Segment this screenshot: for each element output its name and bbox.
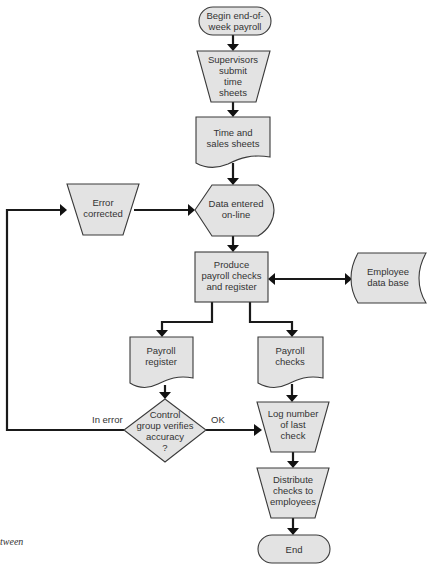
supervisors-label-line-1: Supervisors xyxy=(208,54,258,65)
error-corrected-label-line-2: corrected xyxy=(83,208,123,219)
employee-database-node: Employee data base xyxy=(351,253,426,303)
control-label-line-1: Control xyxy=(150,409,181,420)
control-decision-diamond: Control group verifies accuracy ? xyxy=(124,399,206,462)
begin-label-line-1: Begin end-of- xyxy=(206,10,263,21)
time-sales-label-line-2: sales sheets xyxy=(207,138,260,149)
caption-fragment: tween xyxy=(0,536,23,547)
error-corrected-node: Error corrected xyxy=(67,184,139,235)
begin-label-line-2: week payroll xyxy=(208,21,262,32)
produce-label-line-3: and register xyxy=(206,281,256,292)
distribute-label-line-1: Distribute xyxy=(273,474,313,485)
produce-payroll-process: Produce payroll checks and register xyxy=(195,252,268,302)
end-label: End xyxy=(286,544,303,555)
connectors xyxy=(7,35,352,535)
control-label-line-2: group verifies xyxy=(136,420,193,431)
log-number-label-line-2: of last xyxy=(280,419,306,430)
edge-label-ok: OK xyxy=(211,414,225,425)
supervisors-label-line-2: submit xyxy=(219,65,247,76)
edge-label-in-error: In error xyxy=(92,414,123,425)
payroll-flowchart: Begin end-of- week payroll Supervisors s… xyxy=(0,0,427,572)
payroll-register-label-line-1: Payroll xyxy=(146,345,175,356)
control-label-line-4: ? xyxy=(162,442,167,453)
produce-label-line-1: Produce xyxy=(214,259,249,270)
payroll-checks-document: Payroll checks xyxy=(258,337,323,387)
payroll-register-document: Payroll register xyxy=(130,337,193,387)
distribute-label-line-3: employees xyxy=(270,496,316,507)
log-number-label-line-3: check xyxy=(281,430,306,441)
payroll-checks-label-line-2: checks xyxy=(275,356,305,367)
log-number-node: Log number of last check xyxy=(257,402,329,452)
log-number-label-line-1: Log number xyxy=(268,408,319,419)
supervisors-label-line-3: time xyxy=(224,76,242,87)
payroll-checks-label-line-1: Payroll xyxy=(275,345,304,356)
produce-label-line-2: payroll checks xyxy=(201,270,261,281)
end-terminal: End xyxy=(258,535,330,563)
error-corrected-label-line-1: Error xyxy=(92,197,113,208)
data-entered-label-line-2: on-line xyxy=(222,209,251,220)
employee-db-label-line-2: data base xyxy=(367,277,409,288)
time-sales-document: Time and sales sheets xyxy=(196,117,270,167)
distribute-label-line-2: checks to xyxy=(273,485,313,496)
control-label-line-3: accuracy xyxy=(146,431,184,442)
distribute-checks-node: Distribute checks to employees xyxy=(257,468,329,518)
supervisors-submit-node: Supervisors submit time sheets xyxy=(197,51,270,102)
payroll-register-label-line-2: register xyxy=(145,356,177,367)
begin-terminal: Begin end-of- week payroll xyxy=(199,7,271,35)
data-entered-label-line-1: Data entered xyxy=(209,198,264,209)
supervisors-label-line-4: sheets xyxy=(219,87,247,98)
data-entered-display: Data entered on-line xyxy=(195,185,274,236)
employee-db-label-line-1: Employee xyxy=(367,266,409,277)
time-sales-label-line-1: Time and xyxy=(213,127,252,138)
